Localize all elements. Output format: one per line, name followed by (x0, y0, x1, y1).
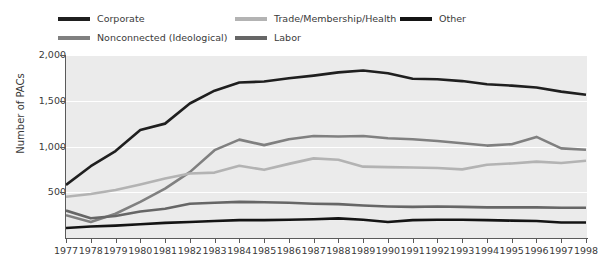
legend-swatch-trade-membership-health (235, 17, 267, 21)
series-line-other (66, 218, 586, 228)
legend-item-other: Other (400, 13, 466, 24)
series-line-corporate (66, 71, 586, 185)
legend-label-corporate: Corporate (97, 13, 145, 24)
x-tick-label-1998: 1998 (566, 245, 606, 256)
legend-swatch-other (400, 17, 432, 21)
chart-root: Corporate Trade/Membership/Health Other … (0, 0, 608, 268)
legend-label-trade-membership-health: Trade/Membership/Health (274, 13, 396, 24)
series-line-labor (66, 202, 586, 218)
x-tick-mark-1991 (413, 238, 414, 243)
legend-item-trade-membership-health: Trade/Membership/Health (235, 13, 396, 24)
series-line-trade-membership-health (66, 158, 586, 196)
x-tick-mark-1984 (239, 238, 240, 243)
x-tick-mark-1981 (165, 238, 166, 243)
x-tick-mark-1977 (66, 238, 67, 243)
x-tick-mark-1986 (289, 238, 290, 243)
x-tick-mark-1993 (462, 238, 463, 243)
x-tick-mark-1985 (264, 238, 265, 243)
legend-label-other: Other (439, 13, 466, 24)
legend-item-nonconnected-ideological: Nonconnected (Ideological) (58, 32, 227, 43)
legend-item-labor: Labor (235, 32, 301, 43)
legend-label-nonconnected-ideological: Nonconnected (Ideological) (97, 32, 227, 43)
x-tick-mark-1995 (512, 238, 513, 243)
legend-swatch-labor (235, 36, 267, 40)
x-tick-mark-1980 (140, 238, 141, 243)
x-tick-mark-1979 (116, 238, 117, 243)
x-tick-mark-1998 (586, 238, 587, 243)
plot-area (66, 55, 587, 238)
chart-legend: Corporate Trade/Membership/Health Other … (0, 0, 608, 50)
legend-item-corporate: Corporate (58, 13, 145, 24)
x-tick-mark-1990 (388, 238, 389, 243)
x-tick-mark-1997 (561, 238, 562, 243)
series-lines (66, 55, 587, 238)
x-tick-mark-1992 (437, 238, 438, 243)
x-tick-mark-1987 (314, 238, 315, 243)
legend-label-labor: Labor (274, 32, 301, 43)
series-line-nonconnected-ideological (66, 136, 586, 222)
x-tick-mark-1988 (338, 238, 339, 243)
x-tick-mark-1983 (215, 238, 216, 243)
x-tick-mark-1989 (363, 238, 364, 243)
x-axis-line (65, 238, 588, 239)
x-tick-mark-1978 (91, 238, 92, 243)
x-tick-mark-1994 (487, 238, 488, 243)
y-axis-title: Number of PACs (15, 49, 26, 179)
x-tick-mark-1996 (536, 238, 537, 243)
y-axis: Number of PACs 5001,0001,5002,000 (0, 0, 66, 268)
x-tick-mark-1982 (190, 238, 191, 243)
